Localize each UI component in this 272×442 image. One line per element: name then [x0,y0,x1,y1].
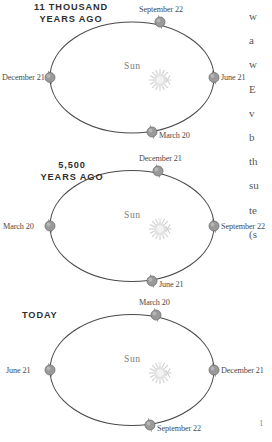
orbit-panel-11-thousand-years-ago: 11 THOUSAND YEARS AGO Sun September 22 J… [0,0,228,148]
earth-marker-right [209,363,219,376]
body-text-line: E [249,77,272,101]
sun-icon [149,362,170,383]
body-text-line: w [249,52,272,76]
body-text-line: v [249,101,272,125]
body-text-line: a [249,28,272,52]
orbit-label-bottom-1: March 20 [159,131,190,140]
body-text-column: w a w E v b th su te (s [249,0,272,246]
orbit-label-top-1: September 22 [139,5,183,14]
sun-label-3: Sun [124,353,141,364]
page-folio: 1 [259,418,272,428]
body-text-line: w [249,4,272,28]
earth-marker-bottom [147,274,157,287]
panel-caption-2: 5,500 YEARS AGO [24,160,120,183]
body-text-line: te [249,198,272,222]
orbit-label-left-3: June 21 [6,366,31,375]
orbit-label-left-2: March 20 [3,222,34,231]
earth-marker-top [151,308,161,321]
earth-marker-right [209,219,219,232]
earth-marker-bottom [145,418,155,431]
panel-caption-1: 11 THOUSAND YEARS AGO [18,2,124,25]
orbit-ellipse [50,22,214,133]
earth-marker-left [45,363,55,376]
earth-marker-left [45,219,55,232]
panel-caption-3: TODAY [22,310,102,322]
earth-marker-top [153,164,163,177]
earth-marker-right [209,71,219,84]
body-text-line: b [249,125,272,149]
sun-icon [149,218,170,239]
orbit-label-right-1: June 21 [221,73,246,82]
body-text-line: (s [249,222,272,246]
orbit-panel-today: TODAY Sun March 20 December 21 September… [0,296,228,442]
earth-marker-left [45,71,55,84]
orbit-label-bottom-2: June 21 [159,280,184,289]
sun-icon [149,69,170,90]
sun-label-2: Sun [124,209,141,220]
orbit-label-top-2: December 21 [139,154,182,163]
sun-label-1: Sun [124,60,141,71]
figure-page: 11 THOUSAND YEARS AGO Sun September 22 J… [0,0,272,442]
body-text-line: su [249,173,272,197]
orbit-label-left-1: December 21 [2,73,45,82]
orbit-ellipse [50,171,214,282]
body-text-line: th [249,149,272,173]
orbit-label-right-3: December 21 [221,366,264,375]
orbit-label-top-3: March 20 [139,298,170,307]
orbit-panel-5500-years-ago: 5,500 YEARS AGO Sun December 21 Septembe… [0,148,228,296]
earth-marker-bottom [147,125,157,138]
orbit-ellipse [50,315,214,426]
orbit-label-bottom-3: September 22 [157,424,201,433]
